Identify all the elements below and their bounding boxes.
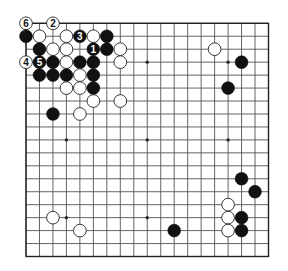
white-stone-circle [74,82,87,95]
black-stone-circle [87,82,100,95]
black-stone: 5 [33,56,46,69]
white-stone [222,198,235,211]
white-stone-circle [33,30,46,43]
white-stone-circle [87,30,100,43]
white-stone [60,82,73,95]
move-number-label: 4 [23,57,29,68]
black-stone-circle [222,82,235,95]
black-stone [33,69,46,82]
star-point [65,216,68,219]
white-stone: 2 [47,17,60,30]
black-stone-circle [100,43,113,56]
black-stone [87,56,100,69]
black-stone-circle [33,43,46,56]
white-stone [208,43,221,56]
black-stone [20,30,33,43]
black-stone-circle [168,224,181,237]
black-stone [47,56,60,69]
white-stone-circle [222,198,235,211]
black-stone-circle [249,185,262,198]
star-point [226,60,229,63]
white-stone-circle [222,224,235,237]
move-number-label: 2 [50,18,56,29]
white-stone [60,56,73,69]
move-number-label: 3 [77,31,83,42]
white-stone [60,43,73,56]
white-stone-circle [114,43,127,56]
black-stone [60,69,73,82]
white-stone [60,30,73,43]
black-stone [47,108,60,121]
white-stone: 6 [20,17,33,30]
go-board-diagram: 623145 [0,0,288,271]
black-stone [100,43,113,56]
black-stone-circle [235,211,248,224]
white-stone-circle [114,95,127,108]
white-stone-circle [47,43,60,56]
white-stone-circle [60,30,73,43]
white-stone [74,108,87,121]
white-stone [222,211,235,224]
white-stone-circle [60,82,73,95]
move-number-label: 1 [91,44,97,55]
white-stone-circle [87,95,100,108]
white-stone [87,95,100,108]
black-stone-circle [20,30,33,43]
black-stone [168,224,181,237]
white-stone [74,82,87,95]
black-stone [87,82,100,95]
white-stone [74,69,87,82]
move-number-label: 5 [37,57,43,68]
star-point [146,138,149,141]
black-stone [235,172,248,185]
star-point [226,138,229,141]
black-stone-circle [47,69,60,82]
white-stone-circle [74,108,87,121]
black-stone-circle [235,56,248,69]
white-stone [47,211,60,224]
black-stone-circle [74,56,87,69]
star-point [146,60,149,63]
white-stone-circle [60,56,73,69]
black-stone [47,69,60,82]
black-stone-circle [33,69,46,82]
white-stone-circle [60,43,73,56]
white-stone-circle [222,211,235,224]
black-stone-circle [47,108,60,121]
black-stone-circle [87,69,100,82]
move-number-label: 6 [23,18,29,29]
star-point [65,138,68,141]
black-stone: 3 [74,30,87,43]
black-stone [235,211,248,224]
black-stone [235,56,248,69]
white-stone: 4 [20,56,33,69]
black-stone [222,82,235,95]
white-stone [33,30,46,43]
white-stone-circle [47,211,60,224]
black-stone [100,30,113,43]
black-stone-circle [47,56,60,69]
black-stone [249,185,262,198]
white-stone [74,224,87,237]
white-stone [87,30,100,43]
black-stone [33,43,46,56]
black-stone-circle [235,172,248,185]
white-stone [222,224,235,237]
white-stone-circle [114,56,127,69]
black-stone-circle [100,30,113,43]
black-stone [87,69,100,82]
white-stone [47,43,60,56]
black-stone-circle [235,224,248,237]
white-stone-circle [74,69,87,82]
white-stone [114,56,127,69]
black-stone [235,224,248,237]
star-point [146,216,149,219]
black-stone-circle [87,56,100,69]
go-board: 623145 [0,0,288,271]
black-stone-circle [60,69,73,82]
black-stone [74,56,87,69]
black-stone: 1 [87,43,100,56]
white-stone-circle [208,43,221,56]
white-stone [114,95,127,108]
white-stone-circle [74,224,87,237]
